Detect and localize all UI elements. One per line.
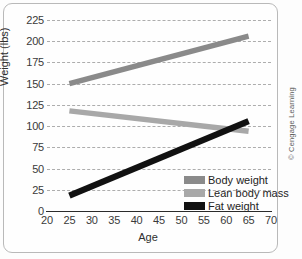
legend-color-swatch (184, 176, 205, 184)
gridline (47, 62, 271, 63)
x-tick-label: 55 (198, 215, 210, 226)
gridline (47, 84, 271, 85)
x-tick-label: 25 (63, 215, 75, 226)
legend-color-swatch (184, 189, 205, 197)
legend-item: Body weight (184, 174, 289, 186)
y-tick-label: 125 (26, 99, 44, 110)
x-tick-label: 70 (265, 215, 277, 226)
legend-item: Lean body mass (184, 187, 289, 199)
legend-color-swatch (184, 202, 205, 210)
x-tick-label: 20 (41, 215, 53, 226)
gridline (47, 147, 271, 148)
y-tick-label: 75 (32, 142, 44, 153)
y-axis-title: Weight (lbs) (0, 28, 10, 86)
x-tick-label: 45 (153, 215, 165, 226)
x-tick-label: 40 (131, 215, 143, 226)
gridline (47, 169, 271, 170)
copyright-credit: © Cengage Learning (287, 87, 296, 160)
legend-label: Fat weight (208, 201, 259, 212)
y-tick-label: 100 (26, 121, 44, 132)
y-tick-label: 25 (32, 184, 44, 195)
y-axis-tick-labels: 0255075100125150175200225 (16, 0, 44, 259)
y-tick-label: 200 (26, 36, 44, 47)
gridline (47, 105, 271, 106)
y-tick-label: 150 (26, 78, 44, 89)
x-tick-label: 65 (243, 215, 255, 226)
gridline (47, 41, 271, 42)
legend-label: Body weight (208, 175, 268, 186)
y-tick-label: 175 (26, 57, 44, 68)
gridline (47, 126, 271, 127)
y-tick-label: 50 (32, 163, 44, 174)
y-tick-label: 225 (26, 15, 44, 26)
x-axis-title: Age (138, 231, 158, 243)
gridline (47, 20, 271, 21)
x-tick-label: 60 (220, 215, 232, 226)
x-tick-label: 35 (108, 215, 120, 226)
x-tick-label: 30 (86, 215, 98, 226)
legend-label: Lean body mass (208, 188, 289, 199)
x-tick-label: 50 (175, 215, 187, 226)
chart-legend: Body weightLean body massFat weight (184, 174, 289, 212)
legend-item: Fat weight (184, 200, 289, 212)
